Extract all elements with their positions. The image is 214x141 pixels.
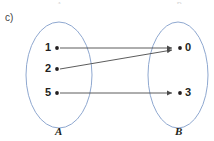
set-a-ellipse [26,22,92,128]
element-label-a-0: 1 [45,42,51,53]
point-2 [55,67,59,71]
element-label-a-2: 5 [45,87,51,98]
set-b-ellipse [148,22,208,128]
mapping-diagram: A B c) 1 2 5 0 3 A B [0,0,214,141]
point-0 [178,46,182,50]
element-label-b-0: 0 [185,42,191,53]
diagram-canvas [0,0,214,141]
element-label-b-1: 3 [185,87,191,98]
point-5 [55,91,59,95]
element-label-a-1: 2 [45,63,51,74]
set-label-a: A [55,126,62,137]
point-1 [55,46,59,50]
point-3 [178,91,182,95]
part-label: c) [5,13,13,23]
set-label-b: B [175,126,182,137]
arrow-2-to-0 [60,50,172,69]
